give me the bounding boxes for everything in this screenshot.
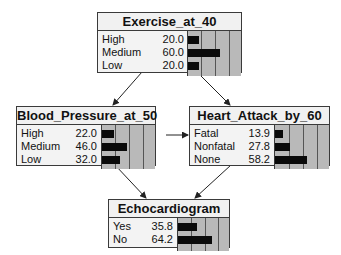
- edge-ha-echo: [195, 165, 231, 198]
- state-row: Nonfatal 27.8: [190, 140, 329, 153]
- belief-bar: [178, 236, 212, 244]
- belief-bar: [102, 130, 114, 138]
- belief-bar: [275, 130, 283, 138]
- node-blood-pressure-at-50[interactable]: Blood_Pressure_at_50 High 22.0 Medium 46…: [16, 106, 156, 166]
- node-title: Blood_Pressure_at_50: [17, 107, 155, 125]
- node-echocardiogram[interactable]: Echocardiogram Yes 35.8 No 64.2: [108, 199, 230, 248]
- belief-bar: [188, 49, 220, 57]
- state-row: None 58.2: [190, 153, 329, 166]
- node-title: Echocardiogram: [109, 200, 229, 218]
- belief-bar: [275, 143, 290, 151]
- state-row: Medium 46.0: [17, 140, 155, 153]
- edge-bp-echo: [115, 165, 146, 198]
- state-row: Low 20.0: [98, 59, 241, 72]
- node-exercise-at-40[interactable]: Exercise_at_40 High 20.0 Medium 60.0 Low…: [97, 12, 242, 73]
- state-row: Yes 35.8: [109, 220, 229, 233]
- belief-bar: [275, 156, 307, 164]
- node-title: Heart_Attack_by_60: [190, 107, 329, 125]
- edge-exercise-ha: [197, 72, 230, 105]
- belief-bar: [102, 156, 120, 164]
- belief-bar: [102, 143, 127, 151]
- state-row: Low 32.0: [17, 153, 155, 166]
- state-row: High 20.0: [98, 33, 241, 46]
- state-row: Medium 60.0: [98, 46, 241, 59]
- edge-exercise-bp: [113, 72, 142, 105]
- node-heart-attack-by-60[interactable]: Heart_Attack_by_60 Fatal 13.9 Nonfatal 2…: [189, 106, 330, 166]
- node-title: Exercise_at_40: [98, 13, 241, 31]
- state-row: High 22.0: [17, 127, 155, 140]
- belief-bar: [188, 36, 199, 44]
- belief-bar: [178, 223, 197, 231]
- belief-bar: [188, 62, 199, 70]
- state-row: No 64.2: [109, 233, 229, 246]
- state-row: Fatal 13.9: [190, 127, 329, 140]
